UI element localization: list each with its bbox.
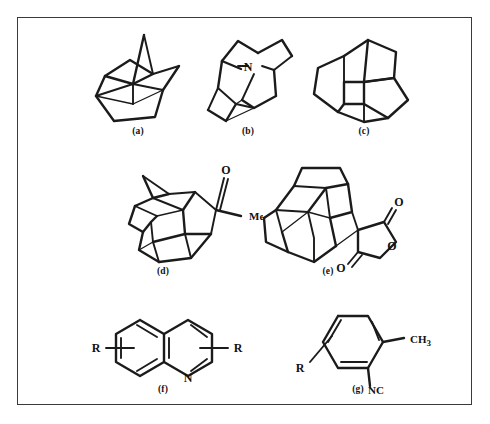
structure-e-drawing: O O O	[256, 158, 421, 283]
structure-b-drawing: N	[196, 26, 306, 131]
caption-d: (d)	[133, 266, 193, 276]
caption-f: (f)	[133, 384, 193, 394]
nitrogen-label: N	[244, 60, 253, 74]
caption-a: (a)	[108, 126, 168, 136]
structure-d: O Me (d)	[123, 158, 263, 283]
anhydride-carbonyl-oxygen-upper-label: O	[394, 195, 403, 209]
r-group-right-label: R	[234, 341, 243, 355]
structure-f: R N R (f)	[88, 306, 258, 396]
r-group-label: R	[296, 361, 305, 375]
anhydride-ring-oxygen-label: O	[387, 239, 396, 253]
caption-c: (c)	[334, 126, 394, 136]
structure-a: (a)	[83, 26, 193, 131]
figure-frame: (a) N (b)	[17, 17, 472, 405]
structure-a-drawing	[83, 26, 193, 131]
caption-g: (g)	[328, 384, 388, 394]
structure-e: O O O (e)	[256, 158, 421, 283]
structure-g: CH3 NC R (g)	[286, 306, 436, 396]
structure-g-drawing: CH3 NC R	[286, 306, 436, 396]
structure-c-drawing	[306, 26, 431, 134]
caption-b: (b)	[218, 126, 278, 136]
structure-d-drawing: O Me	[123, 158, 263, 283]
methyl-label: CH3	[410, 333, 432, 348]
carbonyl-oxygen-label: O	[221, 163, 230, 177]
quinoline-nitrogen-label: N	[184, 371, 193, 385]
structure-f-drawing: R N R	[88, 306, 258, 396]
structure-c: (c)	[306, 26, 431, 134]
caption-e: (e)	[298, 266, 358, 276]
structure-b: N (b)	[196, 26, 306, 131]
r-group-left-label: R	[92, 341, 101, 355]
